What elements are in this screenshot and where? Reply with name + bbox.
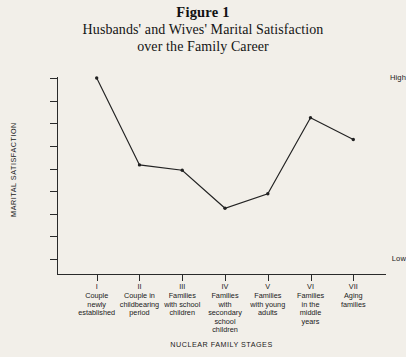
x-axis-tick: [139, 274, 140, 281]
y-axis-tick: [50, 146, 58, 147]
x-axis-tick: [97, 274, 98, 281]
y-axis-tick: [50, 259, 58, 260]
figure-caption-line2: over the Family Career: [0, 38, 406, 55]
category-roman-numeral: VII: [324, 283, 382, 291]
y-axis-tick: [50, 214, 58, 215]
x-axis-line: [57, 274, 386, 275]
figure-number: Figure 1: [0, 4, 406, 21]
y-axis-title: MARITAL SATISFACTION: [9, 105, 18, 235]
x-axis-tick: [225, 274, 226, 281]
y-axis-tick: [50, 191, 58, 192]
y-axis-high-label: High: [360, 74, 406, 82]
data-point-marker: [95, 76, 98, 79]
data-series-line: [97, 78, 354, 208]
x-axis-tick: [311, 274, 312, 281]
figure-caption-line1: Husbands' and Wives' Marital Satisfactio…: [0, 21, 406, 38]
figure-title-block: Figure 1 Husbands' and Wives' Marital Sa…: [0, 4, 406, 55]
data-point-marker: [223, 207, 226, 210]
data-point-marker: [138, 163, 141, 166]
data-point-marker: [309, 116, 312, 119]
data-point-marker: [266, 192, 269, 195]
x-axis-title: NUCLEAR FAMILY STAGES: [57, 340, 386, 349]
data-point-marker: [181, 169, 184, 172]
x-axis-category-label: VIIAgingfamilies: [324, 283, 382, 309]
y-axis-tick: [50, 123, 58, 124]
x-axis-tick: [353, 274, 354, 281]
y-axis-line: [57, 77, 58, 275]
x-axis-tick: [268, 274, 269, 281]
figure-page: Figure 1 Husbands' and Wives' Marital Sa…: [0, 0, 406, 357]
y-axis-tick: [50, 236, 58, 237]
y-axis-tick: [50, 78, 58, 79]
y-axis-tick: [50, 101, 58, 102]
category-name: Agingfamilies: [324, 292, 382, 309]
y-axis-tick: [50, 169, 58, 170]
data-point-marker: [352, 138, 355, 141]
y-axis-low-label: Low: [360, 255, 406, 263]
x-axis-tick: [182, 274, 183, 281]
